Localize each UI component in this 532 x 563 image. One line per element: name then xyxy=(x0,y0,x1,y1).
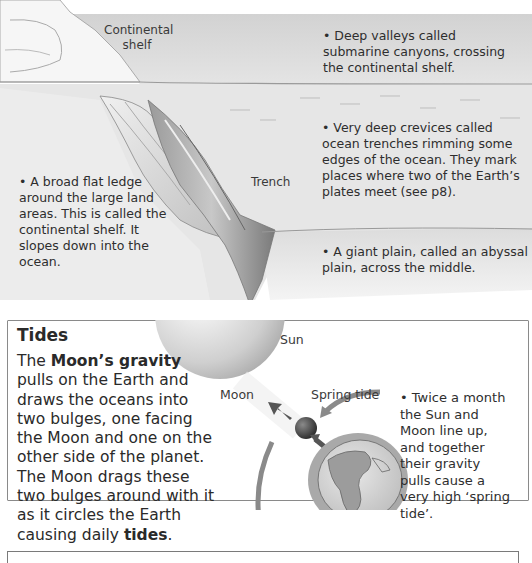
moon-label: Moon xyxy=(220,387,254,402)
tides-body-end: . xyxy=(167,526,172,544)
continental-shelf-label-line2: shelf xyxy=(104,38,170,53)
textbook-page: Continental shelf Trench • Deep valleys … xyxy=(0,0,532,563)
tides-body-pre: The xyxy=(17,352,51,370)
ocean-floor-illustration: Continental shelf Trench • Deep valleys … xyxy=(0,0,532,300)
tides-title: Tides xyxy=(17,325,68,345)
spring-tide-note: • Twice a month the Sun and Moon line up… xyxy=(400,390,510,522)
tides-body: The Moon’s gravity pulls on the Earth an… xyxy=(17,352,217,545)
tides-body-mid: pulls on the Earth and draws the oceans … xyxy=(17,371,214,543)
continental-shelf-label-line1: Continental xyxy=(104,23,170,38)
note-continental-shelf: • A broad flat ledge around the large la… xyxy=(19,174,169,270)
trench-label: Trench xyxy=(251,175,290,190)
continental-shelf-label: Continental shelf xyxy=(104,23,170,53)
note-submarine-canyons: • Deep valleys called submarine canyons,… xyxy=(323,28,523,76)
spring-tide-label: Spring tide xyxy=(311,387,379,402)
tides-body-bold-gravity: Moon’s gravity xyxy=(51,352,181,370)
sun-label: Sun xyxy=(280,332,304,347)
note-abyssal-plain: • A giant plain, called an abyssal plain… xyxy=(322,244,532,276)
note-ocean-trenches: • Very deep crevices called ocean trench… xyxy=(322,120,528,200)
tides-body-bold-tides: tides xyxy=(124,526,168,544)
next-section-box xyxy=(7,551,519,563)
